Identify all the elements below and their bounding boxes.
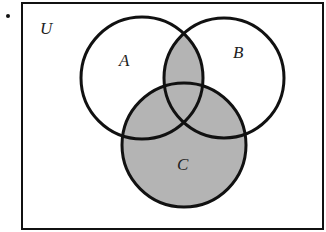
set-label-b: B (233, 43, 244, 62)
venn-diagram: U A B C (0, 0, 326, 232)
bullet-marker (6, 14, 10, 18)
universe-label: U (40, 19, 54, 38)
set-label-a: A (118, 51, 130, 70)
set-label-c: C (177, 155, 189, 174)
